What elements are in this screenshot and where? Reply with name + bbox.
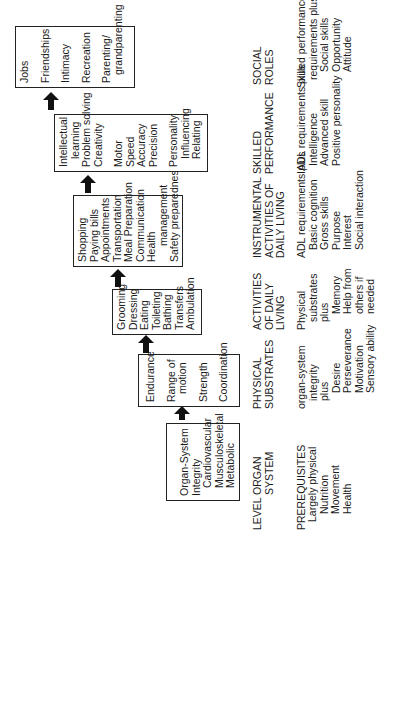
- box-line: Accuracy: [136, 119, 148, 167]
- up-arrow-icon: [173, 406, 191, 420]
- physical-substrates-box: Endurance Range of motion Strength Coord…: [138, 354, 240, 407]
- box-line: Problem solving: [81, 119, 93, 167]
- up-arrow-icon: [80, 175, 96, 193]
- box-line: Grooming: [116, 294, 128, 330]
- box-line: Ambulation: [185, 294, 197, 330]
- prereq-physical-substrates: organ-system integrity plus Desire Perse…: [296, 325, 377, 409]
- skilled-performance-box: Intellectual learning Problem solving Cr…: [54, 114, 208, 172]
- box-line: Cardiovascular: [202, 428, 214, 496]
- box-line: Jobs: [19, 31, 31, 83]
- box-line: Bathing: [162, 294, 174, 330]
- adl-box: Grooming Dressing Eating Toileting Bathi…: [112, 289, 202, 335]
- box-line: Relating: [191, 119, 203, 167]
- box-line: Organ-System: [179, 428, 191, 496]
- prereq-organ-system: Largely physical Nutrition Movement Heal…: [307, 447, 353, 530]
- level-adl: ACTIVITIES OF DAILY LIVING: [252, 273, 287, 330]
- box-line: Strength: [198, 359, 210, 402]
- box-line: Recreation: [81, 31, 93, 83]
- prereq-social-roles: Skilled performance requirements plus So…: [296, 0, 354, 88]
- box-line: Intimacy: [60, 31, 72, 83]
- box-line: Endurance: [145, 359, 157, 402]
- box-line: motion: [177, 359, 189, 402]
- box-line: Friendships: [40, 31, 52, 83]
- prereq-adl: Physical substrates plus Memory Help fro…: [296, 268, 377, 330]
- social-roles-box: Jobs Friendships Intimacy Recreation Par…: [15, 26, 135, 88]
- box-line: Metabolic: [225, 428, 237, 496]
- iadl-box: Shopping Paying bills Appointments Trans…: [73, 195, 183, 267]
- box-line: Parenting/: [101, 31, 113, 83]
- box-line: Meal Preparation: [123, 200, 135, 262]
- box-line: grandparenting: [113, 31, 125, 83]
- box-line: Personality: [168, 119, 180, 167]
- level-physical-substrates: PHYSICAL SUBSTRATES: [252, 340, 275, 409]
- box-line: Motor: [113, 119, 125, 167]
- box-line: Creativity: [93, 119, 105, 167]
- up-arrow-icon: [138, 335, 154, 353]
- up-arrow-icon: [43, 92, 59, 110]
- up-arrow-icon: [110, 269, 126, 287]
- box-line: Health: [146, 200, 158, 262]
- box-line: Safety preparedness: [169, 200, 181, 262]
- level-organ-system: ORGAN SYSTEM: [252, 452, 275, 495]
- functional-hierarchy-diagram: Organ-System Integrity Cardiovascular Mu…: [0, 0, 404, 720]
- box-line: Coordination: [218, 359, 230, 402]
- level-skilled-performance: SKILLED PERFORMANCE: [252, 92, 275, 174]
- box-line: Eating: [139, 294, 151, 330]
- box-line: Precision: [148, 119, 160, 167]
- level-social-roles: SOCIAL ROLES: [252, 46, 275, 85]
- box-line: Shopping: [77, 200, 89, 262]
- box-line: Appointments: [100, 200, 112, 262]
- level-iadl: INSTRUMENTAL ACTIVITIES OF DAILY LIVING: [252, 177, 287, 258]
- level-header: LEVEL: [252, 497, 264, 530]
- box-line: Intellectual: [58, 119, 70, 167]
- organ-system-box: Organ-System Integrity Cardiovascular Mu…: [166, 423, 240, 501]
